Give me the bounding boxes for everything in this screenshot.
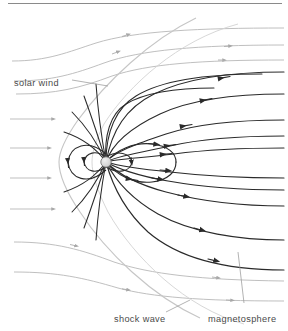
solar-wind-leader: [72, 80, 108, 86]
stream-arrowhead: [224, 46, 231, 47]
field-arrowhead: [183, 125, 192, 127]
solar-wind-stream: [14, 242, 284, 281]
field-line: [106, 162, 284, 178]
field-arrowhead: [221, 77, 230, 79]
field-arrowhead: [208, 259, 217, 261]
polar-line-south: [64, 162, 106, 192]
solar-wind-stream: [12, 28, 284, 61]
field-arrowhead: [160, 170, 169, 171]
solar-wind-arrows: [10, 119, 54, 209]
polar-line-north: [64, 132, 106, 162]
solar-wind-label: solar wind: [14, 78, 59, 88]
magnetosphere-leader: [238, 252, 244, 303]
field-line: [106, 162, 284, 206]
magnetosphere-diagram: solar wind shock wave magnetosphere: [0, 0, 288, 331]
field-lines-south: [106, 162, 284, 270]
solar-wind-stream: [14, 45, 284, 81]
deflected-solar-wind-streams: [12, 28, 284, 301]
earth-planet: [101, 157, 111, 167]
magnetosphere-label: magnetosphere: [208, 314, 276, 324]
field-arrowhead: [152, 178, 161, 179]
field-line: [106, 148, 284, 162]
stream-arrowhead: [212, 277, 219, 278]
field-line: [106, 162, 284, 190]
polar-field-lines: [64, 74, 262, 240]
field-arrowhead: [131, 157, 132, 163]
field-arrowhead: [84, 160, 85, 166]
stream-arrowhead: [70, 245, 77, 247]
stream-arrowhead: [122, 289, 129, 290]
field-lines-north: [106, 72, 284, 162]
field-arrowhead: [129, 179, 138, 181]
diagram-canvas: solar wind shock wave magnetosphere: [0, 0, 288, 331]
shock-wave-label: shock wave: [114, 314, 166, 324]
stream-arrowhead: [112, 51, 119, 54]
field-arrowhead: [167, 145, 176, 146]
